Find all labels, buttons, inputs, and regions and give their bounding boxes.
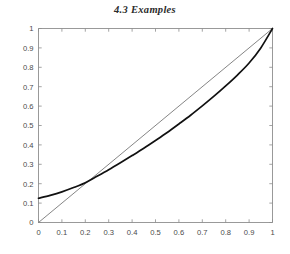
y-tick-label: 0.6 bbox=[23, 102, 34, 111]
page-title: 4.3 Examples bbox=[0, 4, 290, 15]
x-tick-label: 0.8 bbox=[220, 228, 231, 237]
series-curve-line bbox=[39, 29, 273, 199]
y-tick-label: 1 bbox=[29, 24, 33, 33]
y-tick-label: 0.8 bbox=[23, 63, 34, 72]
y-tick-label: 0.3 bbox=[23, 160, 34, 169]
x-tick-label: 0 bbox=[36, 228, 40, 237]
x-tick-label: 0.2 bbox=[80, 228, 91, 237]
y-tick-label: 0.5 bbox=[23, 121, 34, 130]
x-tick-label: 1 bbox=[270, 228, 274, 237]
y-axis-tick-labels: 00.10.20.30.40.50.60.70.80.91 bbox=[23, 24, 34, 227]
y-tick-label: 0.4 bbox=[23, 141, 34, 150]
x-tick-label: 0.6 bbox=[174, 228, 185, 237]
x-axis-tick-labels: 00.10.20.30.40.50.60.70.80.91 bbox=[36, 228, 274, 237]
series-group bbox=[39, 29, 273, 223]
x-tick-label: 0.9 bbox=[244, 228, 255, 237]
y-tick-label: 0.2 bbox=[23, 180, 34, 189]
y-tick-label: 0 bbox=[29, 218, 33, 227]
x-tick-label: 0.1 bbox=[57, 228, 68, 237]
x-tick-label: 0.7 bbox=[197, 228, 208, 237]
x-tick-label: 0.4 bbox=[127, 228, 138, 237]
x-tick-label: 0.3 bbox=[103, 228, 114, 237]
y-tick-label: 0.9 bbox=[23, 44, 34, 53]
x-tick-label: 0.5 bbox=[150, 228, 161, 237]
figure-page: 4.3 Examples 00.10.20.30.40.50.60.70.80.… bbox=[0, 0, 290, 254]
y-tick-label: 0.7 bbox=[23, 83, 34, 92]
y-tick-label: 0.1 bbox=[23, 199, 34, 208]
line-chart: 00.10.20.30.40.50.60.70.80.91 00.10.20.3… bbox=[0, 20, 290, 250]
series-diagonal-line bbox=[39, 29, 273, 223]
chart-container: 00.10.20.30.40.50.60.70.80.91 00.10.20.3… bbox=[0, 20, 290, 250]
